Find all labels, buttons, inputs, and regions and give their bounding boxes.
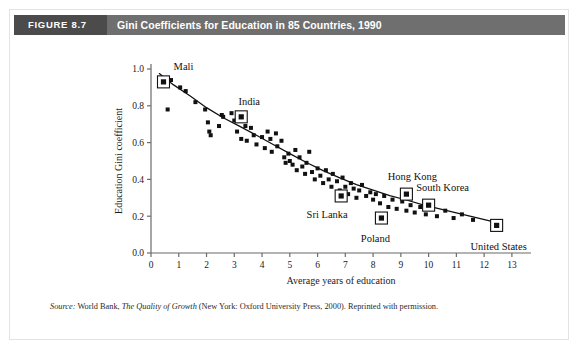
data-point <box>203 107 207 111</box>
data-point <box>341 176 345 180</box>
data-point <box>254 142 258 146</box>
data-point <box>235 130 239 134</box>
axes-layer: 0.00.20.40.60.81.0012345678910111213 <box>132 64 531 270</box>
data-point <box>357 188 361 192</box>
x-tick-label: 7 <box>343 260 348 270</box>
data-point <box>335 179 339 183</box>
y-tick-label: 0.4 <box>132 175 144 185</box>
figure-header-bar: FIGURE 8.7 Gini Coefficients for Educati… <box>14 15 565 35</box>
highlighted-points-layer: MaliIndiaSri LankaPolandHong KongSouth K… <box>157 61 526 253</box>
data-point <box>209 133 213 137</box>
data-point <box>460 212 464 216</box>
x-tick-label: 10 <box>424 260 434 270</box>
y-tick-label: 0.8 <box>132 101 144 111</box>
data-point <box>275 144 279 148</box>
data-point <box>404 209 408 213</box>
data-point <box>260 135 264 139</box>
data-point <box>282 155 286 159</box>
data-point <box>298 155 302 159</box>
x-tick-label: 1 <box>176 260 181 270</box>
data-point <box>300 165 304 169</box>
data-point <box>293 148 297 152</box>
country-label: Mali <box>174 61 194 72</box>
data-point <box>327 177 331 181</box>
x-tick-label: 3 <box>232 260 237 270</box>
data-point <box>391 198 395 202</box>
figure-title: Gini Coefficients for Education in 85 Co… <box>117 19 382 31</box>
trend-line <box>159 74 498 224</box>
data-point <box>349 181 353 185</box>
data-point <box>386 205 390 209</box>
data-point <box>368 190 372 194</box>
data-point <box>360 183 364 187</box>
data-point <box>424 212 428 216</box>
data-point <box>371 198 375 202</box>
country-label: India <box>238 96 260 107</box>
data-point <box>245 139 249 143</box>
data-point <box>304 161 308 165</box>
y-axis-title: Education Gini coefficient <box>113 108 124 214</box>
y-tick-label: 0.6 <box>132 138 144 148</box>
data-point <box>316 166 320 170</box>
scatter-plot: 0.00.20.40.60.81.0012345678910111213 Mal… <box>10 36 568 288</box>
data-point <box>318 174 322 178</box>
data-point <box>409 203 413 207</box>
source-publisher: World Bank, <box>77 302 119 311</box>
data-point <box>230 111 234 115</box>
data-point <box>207 130 211 134</box>
x-tick-label: 5 <box>287 260 292 270</box>
data-point <box>263 146 267 150</box>
x-tick-label: 6 <box>315 260 320 270</box>
x-tick-label: 11 <box>452 260 461 270</box>
highlighted-data-point <box>375 212 387 224</box>
data-point <box>178 85 182 89</box>
data-point <box>324 168 328 172</box>
data-point <box>279 139 283 143</box>
source-prefix: Source: <box>50 302 76 311</box>
country-label: United States <box>470 241 526 252</box>
x-tick-label: 8 <box>371 260 376 270</box>
y-tick-label: 0.0 <box>132 248 144 258</box>
chart-area: 0.00.20.40.60.81.0012345678910111213 Mal… <box>10 36 568 288</box>
source-note: Source: World Bank, The Quality of Growt… <box>50 302 540 313</box>
x-tick-label: 4 <box>260 260 265 270</box>
country-label: South Korea <box>416 182 469 193</box>
data-point <box>303 172 307 176</box>
data-point <box>378 201 382 205</box>
data-point <box>206 120 210 124</box>
data-point <box>217 124 221 128</box>
data-point <box>166 107 170 111</box>
data-point <box>354 196 358 200</box>
data-point <box>435 214 439 218</box>
x-tick-label: 2 <box>204 260 209 270</box>
x-tick-label: 13 <box>507 260 517 270</box>
country-label: Poland <box>361 233 391 244</box>
data-point <box>364 194 368 198</box>
data-point <box>310 170 314 174</box>
x-axis-title: Average years of education <box>287 275 396 286</box>
data-point <box>471 218 475 222</box>
source-rest: (New York: Oxford University Press, 2000… <box>199 302 438 311</box>
highlighted-data-point <box>400 188 412 200</box>
data-point <box>382 194 386 198</box>
highlighted-data-point <box>423 199 435 211</box>
country-label: Sri Lanka <box>307 209 348 220</box>
data-point <box>249 126 253 130</box>
data-point <box>295 168 299 172</box>
data-point <box>374 192 378 196</box>
x-tick-label: 9 <box>398 260 403 270</box>
data-point <box>331 172 335 176</box>
data-point <box>268 137 272 141</box>
data-point <box>288 159 292 163</box>
data-point <box>184 89 188 93</box>
data-point <box>193 100 197 104</box>
figure-number-label: FIGURE 8.7 <box>28 19 87 30</box>
data-point <box>352 187 356 191</box>
data-point <box>252 133 256 137</box>
data-point <box>395 207 399 211</box>
y-tick-label: 0.2 <box>132 212 144 222</box>
data-point <box>321 181 325 185</box>
data-point <box>221 115 225 119</box>
data-point <box>243 124 247 128</box>
data-point <box>239 137 243 141</box>
